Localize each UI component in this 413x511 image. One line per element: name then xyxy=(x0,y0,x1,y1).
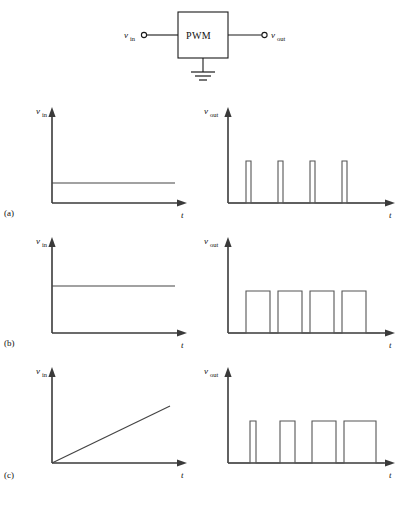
axis-label-vin-sub: in xyxy=(42,111,48,118)
y-axis-arrow-icon xyxy=(48,367,55,377)
plot-a-vin: v in t xyxy=(36,106,187,220)
panel-label-a: (a) xyxy=(4,208,14,218)
axis-label-vin: v xyxy=(36,236,40,246)
row-c-plots: v in t v out t (c) xyxy=(0,358,413,498)
y-axis-arrow-icon xyxy=(48,237,55,247)
axis-label-time: t xyxy=(389,470,392,480)
x-axis-arrow-icon xyxy=(385,199,395,206)
x-axis-arrow-icon xyxy=(177,199,187,206)
x-axis-arrow-icon xyxy=(385,459,395,466)
axis-label-time: t xyxy=(389,210,392,220)
axis-label-vin: v xyxy=(36,366,40,376)
axis-label-vout-sub: out xyxy=(210,241,219,248)
x-axis-arrow-icon xyxy=(177,459,187,466)
y-axis-arrow-icon xyxy=(48,107,55,117)
pulse-train-waveform xyxy=(228,291,380,333)
axis-label-vout: v xyxy=(204,366,208,376)
circuit-input-sublabel: in xyxy=(130,35,136,42)
panel-label-b: (b) xyxy=(4,338,15,348)
plot-b-vout: v out t xyxy=(204,236,395,350)
row-a-plots: v in t v out t (a) xyxy=(0,98,413,228)
pulse-train-waveform xyxy=(228,421,384,463)
axis-label-time: t xyxy=(181,470,184,480)
y-axis-arrow-icon xyxy=(224,107,231,117)
plot-a-vout: v out t xyxy=(204,106,395,220)
axis-label-vout: v xyxy=(204,106,208,116)
x-axis-arrow-icon xyxy=(177,329,187,336)
terminal-circle-icon xyxy=(262,32,267,37)
axis-label-time: t xyxy=(181,340,184,350)
y-axis-arrow-icon xyxy=(224,237,231,247)
pwm-block-label: PWM xyxy=(186,30,211,41)
axis-label-vin-sub: in xyxy=(42,241,48,248)
plot-c-vout: v out t xyxy=(204,366,395,480)
pwm-figure: v in PWM v out v in xyxy=(0,0,413,511)
circuit-output-sublabel: out xyxy=(277,35,286,42)
x-axis-arrow-icon xyxy=(385,329,395,336)
panel-label-c: (c) xyxy=(4,470,14,480)
axis-label-time: t xyxy=(389,340,392,350)
waveform-trace xyxy=(52,406,170,463)
terminal-circle-icon xyxy=(141,32,146,37)
axis-label-vout: v xyxy=(204,236,208,246)
plot-c-vin: v in t xyxy=(36,366,187,480)
axis-label-vin-sub: in xyxy=(42,371,48,378)
y-axis-arrow-icon xyxy=(224,367,231,377)
circuit-output-label: v xyxy=(271,30,275,40)
axis-label-vin: v xyxy=(36,106,40,116)
axis-label-vout-sub: out xyxy=(210,111,219,118)
axis-label-time: t xyxy=(181,210,184,220)
pulse-train-waveform xyxy=(228,161,380,203)
circuit-input-label: v xyxy=(124,30,128,40)
row-b-plots: v in t v out t (b) xyxy=(0,228,413,358)
ground-icon xyxy=(191,58,215,80)
pwm-circuit-diagram: v in PWM v out xyxy=(0,0,413,95)
plot-b-vin: v in t xyxy=(36,236,187,350)
axis-label-vout-sub: out xyxy=(210,371,219,378)
